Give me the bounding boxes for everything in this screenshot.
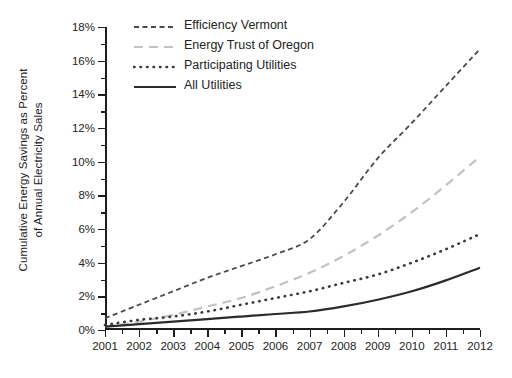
- y-axis-title-line2: of Annual Electricity Sales: [31, 68, 46, 271]
- series-line-all-utilities: [105, 268, 480, 327]
- legend-swatch-icon: [133, 79, 177, 91]
- x-tick-major: [446, 330, 447, 337]
- x-tick-label: 2007: [297, 340, 323, 352]
- legend-label: Participating Utilities: [184, 58, 297, 72]
- x-tick-major: [207, 330, 208, 337]
- x-tick-minor: [293, 330, 294, 334]
- x-tick-label: 2006: [263, 340, 289, 352]
- y-tick-label: 12%: [72, 122, 95, 134]
- y-axis-title: Cumulative Energy Savings as Percent of …: [0, 0, 62, 340]
- y-tick-major: [98, 162, 105, 163]
- legend-item-energy-trust-of-oregon[interactable]: Energy Trust of Oregon: [133, 36, 314, 54]
- x-tick-minor: [429, 330, 430, 334]
- x-tick-major: [344, 330, 345, 337]
- x-tick-label: 2010: [399, 340, 425, 352]
- y-tick-label: 16%: [72, 55, 95, 67]
- x-tick-minor: [327, 330, 328, 334]
- y-tick-label: 2%: [78, 290, 95, 302]
- legend-swatch-icon: [133, 59, 177, 71]
- x-tick-major: [310, 330, 311, 337]
- y-tick-label: 0%: [78, 324, 95, 336]
- y-tick-label: 8%: [78, 189, 95, 201]
- y-tick-label: 18%: [72, 21, 95, 33]
- x-tick-label: 2004: [194, 340, 220, 352]
- legend-item-all-utilities[interactable]: All Utilities: [133, 76, 314, 94]
- y-tick-major: [98, 330, 105, 331]
- x-tick-minor: [190, 330, 191, 334]
- y-tick-label: 6%: [78, 223, 95, 235]
- x-tick-minor: [156, 330, 157, 334]
- x-tick-major: [241, 330, 242, 337]
- x-tick-minor: [122, 330, 123, 334]
- y-tick-major: [98, 94, 105, 95]
- y-tick-label: 4%: [78, 257, 95, 269]
- x-tick-major: [412, 330, 413, 337]
- y-tick-label: 10%: [72, 156, 95, 168]
- chart-legend: Efficiency VermontEnergy Trust of Oregon…: [133, 16, 314, 94]
- x-tick-minor: [395, 330, 396, 334]
- x-tick-minor: [463, 330, 464, 334]
- x-tick-major: [275, 330, 276, 337]
- legend-swatch-icon: [133, 39, 177, 51]
- y-tick-major: [98, 229, 105, 230]
- y-tick-major: [98, 195, 105, 196]
- x-tick-label: 2012: [467, 340, 493, 352]
- x-tick-minor: [224, 330, 225, 334]
- x-tick-label: 2005: [229, 340, 255, 352]
- x-tick-major: [173, 330, 174, 337]
- x-tick-label: 2011: [434, 340, 459, 352]
- x-tick-major: [139, 330, 140, 337]
- y-tick-major: [98, 263, 105, 264]
- x-tick-label: 2001: [92, 340, 118, 352]
- legend-label: Energy Trust of Oregon: [184, 38, 314, 52]
- y-axis-title-line1: Cumulative Energy Savings as Percent: [17, 68, 29, 271]
- x-tick-major: [105, 330, 106, 337]
- legend-swatch-icon: [133, 19, 177, 31]
- legend-item-efficiency-vermont[interactable]: Efficiency Vermont: [133, 16, 314, 34]
- x-tick-label: 2008: [331, 340, 357, 352]
- chart-figure: Cumulative Energy Savings as Percent of …: [0, 0, 512, 378]
- x-tick-major: [480, 330, 481, 337]
- x-tick-major: [378, 330, 379, 337]
- x-tick-label: 2009: [365, 340, 391, 352]
- legend-label: Efficiency Vermont: [184, 18, 287, 32]
- x-tick-minor: [258, 330, 259, 334]
- y-tick-major: [98, 61, 105, 62]
- x-tick-minor: [361, 330, 362, 334]
- y-tick-major: [98, 128, 105, 129]
- legend-item-participating-utilities[interactable]: Participating Utilities: [133, 56, 314, 74]
- series-line-energy-trust-of-oregon: [105, 157, 480, 327]
- y-tick-label: 14%: [72, 88, 95, 100]
- y-tick-major: [98, 27, 105, 28]
- x-tick-label: 2003: [160, 340, 186, 352]
- legend-label: All Utilities: [184, 78, 242, 92]
- y-tick-major: [98, 296, 105, 297]
- x-tick-label: 2002: [126, 340, 152, 352]
